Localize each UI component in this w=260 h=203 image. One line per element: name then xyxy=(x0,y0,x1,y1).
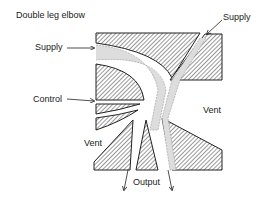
output-label: Output xyxy=(133,177,160,187)
output-arrow-left xyxy=(124,170,128,190)
supply-right-label: Supply xyxy=(223,12,251,22)
vent-right-label: Vent xyxy=(203,105,221,115)
left-block xyxy=(96,64,144,100)
vent-left-label: Vent xyxy=(84,138,102,148)
output-arrow-right xyxy=(168,170,172,190)
control-arrow xyxy=(67,99,94,101)
supply-right-arrow xyxy=(207,20,222,34)
control-label: Control xyxy=(33,94,62,104)
diagram-title: Double leg elbow xyxy=(16,10,85,20)
supply-left-label: Supply xyxy=(35,42,63,52)
